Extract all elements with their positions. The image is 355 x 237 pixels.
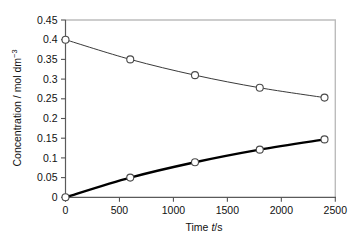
- data-point-product: [256, 146, 263, 153]
- y-tick-label: 0.35: [37, 53, 58, 65]
- x-tick-label: 2000: [270, 204, 294, 216]
- x-tick-label: 1000: [162, 204, 186, 216]
- y-tick-label: 0.1: [43, 152, 58, 164]
- y-axis-title: Concentration / mol dm−3: [10, 50, 23, 167]
- data-point-reactant: [127, 56, 134, 63]
- y-tick-label: 0: [52, 191, 58, 203]
- data-point-product: [62, 194, 69, 201]
- x-axis-title: Time t/s: [186, 221, 223, 233]
- x-tick-label: 2500: [324, 204, 348, 216]
- y-tick-label: 0.15: [37, 132, 58, 144]
- y-tick-label: 0.05: [37, 171, 58, 183]
- chart-figure: 00.050.10.150.20.250.30.350.40.45 050010…: [0, 0, 355, 237]
- svg-text:Time t/s: Time t/s: [186, 221, 223, 233]
- y-tick-label: 0.4: [43, 33, 58, 45]
- y-tick-label: 0.25: [37, 92, 58, 104]
- y-tick-label: 0.45: [37, 14, 58, 26]
- data-point-product: [127, 174, 134, 181]
- x-tick-label: 0: [63, 204, 69, 216]
- data-point-product: [321, 136, 328, 143]
- concentration-time-chart: 00.050.10.150.20.250.30.350.40.45 050010…: [0, 0, 355, 237]
- y-tick-label: 0.3: [43, 73, 58, 85]
- data-point-reactant: [62, 36, 69, 43]
- data-point-reactant: [321, 94, 328, 101]
- x-tick-label: 500: [111, 204, 129, 216]
- x-tick-label: 1500: [216, 204, 240, 216]
- data-point-reactant: [192, 72, 199, 79]
- data-point-reactant: [256, 84, 263, 91]
- svg-text:Concentration / mol dm−3: Concentration / mol dm−3: [10, 50, 23, 167]
- data-point-product: [192, 159, 199, 166]
- y-tick-label: 0.2: [43, 112, 58, 124]
